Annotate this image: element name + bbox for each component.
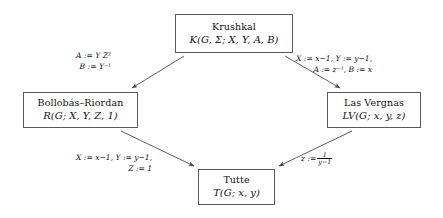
arrow-krushkal-to-bollobas-riordan <box>132 56 184 88</box>
edge-label-line-1: X := x−1, Y := y−1, <box>76 152 152 163</box>
node-bollobas-riordan-formula: R(G; X, Y, Z, 1) <box>43 110 118 123</box>
edge-label-las-vergnas-to-tutte: z :=1y−1 <box>301 152 333 166</box>
edge-label-line-1: A := Y Z² <box>76 50 111 61</box>
edge-label-line-2: B := Y⁻¹ <box>76 61 111 72</box>
node-tutte-name: Tutte <box>223 174 249 186</box>
node-las-vergnas-formula: LV(G; x, y, z) <box>343 110 406 123</box>
edge-label-krushkal-to-bollobas-riordan: A := Y Z² B := Y⁻¹ <box>76 50 111 72</box>
node-bollobas-riordan[interactable]: Bollobás–Riordan R(G; X, Y, Z, 1) <box>23 92 138 128</box>
edge-label-bollobas-riordan-to-tutte: X := x−1, Y := y−1, Z := 1 <box>76 152 152 174</box>
node-bollobas-riordan-name: Bollobás–Riordan <box>38 97 124 109</box>
node-las-vergnas-name: Las Vergnas <box>344 97 404 109</box>
node-tutte[interactable]: Tutte T(G; x, y) <box>198 169 275 205</box>
node-tutte-formula: T(G; x, y) <box>213 187 260 200</box>
edge-label-assignment-prefix: z := <box>301 154 316 163</box>
node-las-vergnas[interactable]: Las Vergnas LV(G; x, y, z) <box>327 92 421 128</box>
commutative-diagram: Krushkal K(G, Σ; X, Y, A, B) Bollobás–Ri… <box>0 0 443 218</box>
node-krushkal-name: Krushkal <box>212 21 256 33</box>
node-krushkal-formula: K(G, Σ; X, Y, A, B) <box>190 34 279 47</box>
fraction: 1y−1 <box>317 152 332 166</box>
edge-label-line-2: A := z⁻¹, B := x <box>296 64 372 75</box>
node-krushkal[interactable]: Krushkal K(G, Σ; X, Y, A, B) <box>175 14 293 53</box>
edge-label-line-2: Z := 1 <box>76 163 152 174</box>
fraction-denominator: y−1 <box>317 159 332 166</box>
edge-label-krushkal-to-las-vergnas: X := x−1, Y := y−1, A := z⁻¹, B := x <box>296 53 372 75</box>
edge-label-line-1: X := x−1, Y := y−1, <box>296 53 372 64</box>
